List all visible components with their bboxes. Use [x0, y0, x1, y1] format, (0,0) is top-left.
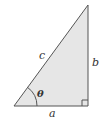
triangle-shape	[14, 5, 88, 106]
right-triangle-diagram: c b a θ	[0, 0, 108, 121]
label-hypotenuse: c	[39, 49, 45, 62]
label-opposite: b	[92, 56, 99, 69]
label-adjacent: a	[49, 107, 56, 120]
label-angle: θ	[37, 88, 44, 99]
